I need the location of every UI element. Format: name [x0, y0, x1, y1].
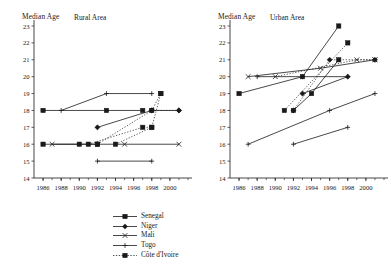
legend-label: Mali: [138, 231, 155, 240]
svg-text:1994: 1994: [109, 184, 123, 191]
legend-item-togo[interactable]: Togo: [112, 241, 178, 251]
svg-text:2000: 2000: [163, 184, 177, 191]
svg-text:17: 17: [219, 124, 226, 131]
legend-label: Niger: [138, 222, 157, 231]
svg-text:16: 16: [219, 141, 226, 148]
legend-label: Senegal: [138, 212, 164, 221]
plus-small-icon: [112, 241, 138, 250]
svg-text:21: 21: [219, 56, 226, 63]
svg-text:19: 19: [219, 90, 226, 97]
svg-text:1988: 1988: [55, 184, 69, 191]
cross-icon: [112, 231, 138, 240]
svg-text:16: 16: [23, 141, 30, 148]
legend-item-mali[interactable]: Mali: [112, 231, 178, 241]
svg-text:23: 23: [23, 23, 30, 30]
legend-label: Togo: [138, 241, 156, 250]
svg-text:1998: 1998: [341, 184, 355, 191]
legend-item-senegal[interactable]: Senegal: [112, 212, 178, 222]
svg-text:15: 15: [23, 158, 30, 165]
figure-root: Median Age Rural Area 141516171819202122…: [0, 0, 392, 265]
svg-text:1992: 1992: [91, 184, 104, 191]
svg-text:1988: 1988: [251, 184, 265, 191]
svg-text:22: 22: [219, 39, 226, 46]
svg-text:19: 19: [23, 90, 30, 97]
svg-text:1994: 1994: [305, 184, 319, 191]
rural-plot-svg: 1415161718192021222319861988199019921994…: [0, 0, 196, 205]
svg-text:21: 21: [23, 56, 30, 63]
legend-item-niger[interactable]: Niger: [112, 222, 178, 232]
svg-text:1990: 1990: [73, 184, 87, 191]
svg-text:20: 20: [219, 73, 226, 80]
svg-text:14: 14: [219, 175, 226, 182]
svg-text:14: 14: [23, 175, 30, 182]
rural-legend: SenegalNigerMaliTogoCôte d'Ivoire: [112, 212, 178, 260]
svg-text:18: 18: [219, 107, 226, 114]
svg-text:1996: 1996: [323, 184, 337, 191]
svg-text:1998: 1998: [145, 184, 159, 191]
diamond-icon: [112, 222, 138, 231]
svg-text:1986: 1986: [232, 184, 246, 191]
square-filled-icon: [112, 212, 138, 221]
urban-plot-svg: 1415161718192021222319861988199019921994…: [196, 0, 392, 205]
square-filled-icon: [112, 251, 138, 260]
svg-text:18: 18: [23, 107, 30, 114]
svg-text:1996: 1996: [127, 184, 141, 191]
legend-item-c-te-d-ivoire[interactable]: Côte d'Ivoire: [112, 250, 178, 260]
svg-text:1990: 1990: [269, 184, 283, 191]
panel-urban: Median Age Urban Area 141516171819202122…: [196, 0, 392, 265]
svg-text:1992: 1992: [287, 184, 300, 191]
svg-text:2000: 2000: [359, 184, 373, 191]
svg-text:17: 17: [23, 124, 30, 131]
panel-rural: Median Age Rural Area 141516171819202122…: [0, 0, 196, 265]
svg-text:20: 20: [23, 73, 30, 80]
svg-text:23: 23: [219, 23, 226, 30]
legend-label: Côte d'Ivoire: [138, 251, 178, 260]
svg-text:15: 15: [219, 158, 226, 165]
svg-text:1986: 1986: [36, 184, 50, 191]
svg-text:22: 22: [23, 39, 30, 46]
